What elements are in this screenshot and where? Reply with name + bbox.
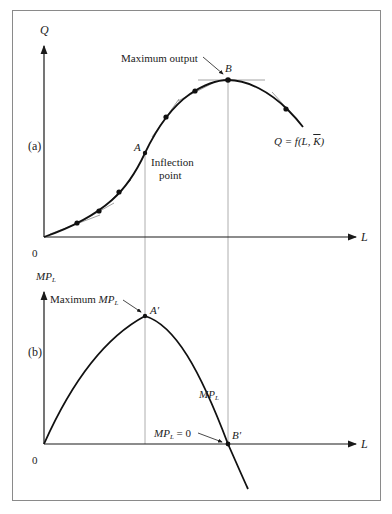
maximum-mpl-prefix: Maximum [50,293,99,305]
max-output-arrow [203,57,223,74]
mpl-zero-arrow [198,433,222,442]
figure-graphics [0,0,392,514]
production-function-figure: Q (a) 0 L Maximum output B A Inflection … [0,0,392,514]
mpl-axis-label-main: MP [36,270,52,282]
point-B-label: B [225,63,232,74]
mpl-curve-label: MPL [199,389,219,402]
function-label: Q = f(L, K) [274,136,324,147]
point-A-prime-dot [143,314,147,318]
mpl-axis-label-sub: L [52,276,56,284]
function-label-suffix: ) [321,135,325,147]
inflection-label-line2: point [159,170,182,181]
inflection-label-line1: Inflection [151,157,194,168]
max-mpl-arrow [123,300,141,312]
function-label-prefix: Q = f(L, [274,135,313,147]
maximum-mpl-main: MP [99,293,115,305]
point-B-prime-label: B′ [232,430,241,441]
mpl-zero-label: MPL = 0 [154,428,191,441]
q-axis-label: Q [40,24,49,36]
mpl-zero-suffix: = 0 [174,427,191,439]
maximum-mpl-sub: L [114,299,118,307]
mpl-curve-label-sub: L [215,394,219,402]
l-axis-label-b: L [361,438,368,450]
origin-label-a: 0 [32,248,38,259]
maximum-output-label: Maximum output [121,53,198,64]
l-axis-label-a: L [361,231,368,243]
panel-b-tag: (b) [28,346,42,358]
point-A-label: A [134,142,141,153]
mpl-axis-label: MPL [36,271,56,284]
function-label-k: K [313,135,320,147]
mpl-curve-label-main: MP [199,388,215,400]
point-B-prime-dot [226,442,231,447]
panel-a-tag: (a) [28,140,41,152]
marginal-product-curve [44,316,248,489]
origin-label-b: 0 [32,455,38,466]
mpl-zero-main: MP [154,427,170,439]
point-A-prime-label: A′ [150,305,159,316]
maximum-mpl-label: Maximum MPL [50,294,118,307]
